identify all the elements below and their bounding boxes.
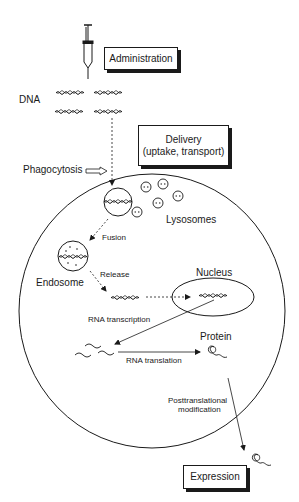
endosome-label: Endosome (36, 278, 84, 288)
posttranslational-arrow (228, 378, 244, 450)
delivery-sublabel: (uptake, transport) (143, 146, 225, 158)
diagram-canvas (0, 0, 299, 502)
cytoplasm-dna-icon (111, 296, 139, 300)
expression-label: Expression (190, 471, 239, 483)
nuclear-dna-icon (199, 294, 227, 298)
syringe-icon (83, 25, 93, 79)
nucleus-label: Nucleus (196, 268, 232, 278)
expressed-protein-icon (252, 454, 271, 465)
administration-label: Administration (109, 53, 172, 65)
posttranslational-label: Posttranslational (168, 397, 227, 405)
lysosomes-label: Lysosomes (166, 215, 216, 225)
expression-box: Expression (183, 465, 247, 489)
phagosome (104, 188, 132, 216)
delivery-label: Delivery (165, 134, 201, 146)
endosome (58, 241, 88, 271)
rna-transcription-label: RNA transcription (88, 316, 150, 324)
dna-strands-icon (55, 91, 122, 114)
modification-label: modification (178, 406, 221, 414)
mrna-icon (75, 344, 114, 357)
administration-box: Administration (104, 47, 178, 70)
rna-translation-label: RNA translation (126, 357, 182, 365)
delivery-box: Delivery (uptake, transport) (138, 125, 229, 166)
lysosomes-icon (132, 179, 183, 217)
phagocytosis-label: Phagocytosis (23, 165, 82, 175)
fusion-label: Fusion (102, 234, 126, 242)
phagocytosis-arrow-icon (86, 167, 107, 175)
cell-membrane (19, 174, 285, 448)
protein-icon (208, 346, 227, 357)
dna-label: DNA (19, 95, 40, 105)
release-label: Release (100, 271, 129, 279)
protein-label: Protein (200, 332, 232, 342)
